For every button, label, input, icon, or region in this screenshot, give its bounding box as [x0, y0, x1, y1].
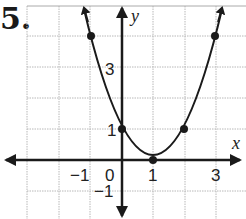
x-tick-neg1: −1	[70, 166, 89, 185]
point-neg1-4	[87, 32, 95, 40]
y-tick-3: 3	[105, 60, 114, 79]
y-tick-1: 1	[107, 121, 116, 140]
point-2-1	[180, 125, 188, 133]
x-tick-1: 1	[148, 166, 157, 185]
point-0-1	[118, 125, 126, 133]
y-axis-label: y	[129, 6, 139, 26]
x-axis-label: x	[231, 133, 240, 153]
x-tick-3: 3	[211, 166, 220, 185]
x-tick-0: 0	[105, 166, 114, 185]
point-1-0	[149, 156, 157, 164]
coordinate-plane: y x 3 1 −1 −1 0 1 3	[0, 0, 246, 219]
point-3-4	[211, 32, 219, 40]
axes	[6, 8, 240, 216]
